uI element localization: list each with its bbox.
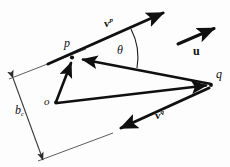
figure-canvas (0, 0, 230, 167)
dimension-bc-arrow (13, 78, 43, 160)
dimension-label-bc: bc (15, 104, 24, 116)
angle-label-theta: θ (117, 44, 123, 56)
vector-label-vp-superscript: p (110, 16, 114, 24)
dimension-extension-lines (9, 49, 113, 161)
point-o-node (54, 101, 58, 105)
segment-q-to-p (83, 60, 211, 85)
angle-theta-arc (131, 29, 138, 68)
vector-label-vp: vp (104, 18, 113, 29)
point-p-node (70, 55, 74, 59)
point-label-o: o (44, 96, 50, 107)
point-q-node (209, 83, 213, 87)
vector-label-u: u (193, 45, 200, 57)
point-label-q: q (216, 68, 222, 80)
segment-o-to-p (56, 63, 71, 102)
dimension-extension-line-bottom (38, 133, 113, 161)
dimension-label-bc-subscript: c (21, 110, 24, 118)
vector-geometry-figure: p q o θ bc vp vq u (0, 0, 230, 167)
vector-label-vq-superscript: q (161, 108, 165, 116)
vector-u (178, 29, 214, 45)
vector-label-vq: vq (155, 110, 164, 121)
point-label-p: p (64, 37, 70, 49)
